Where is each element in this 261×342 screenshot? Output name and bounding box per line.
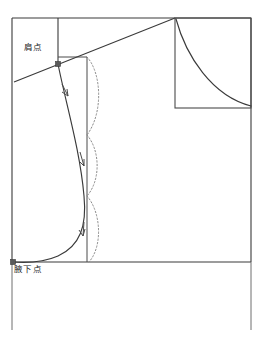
detail-inset-curve: [176, 19, 251, 106]
dotted-arc-middle: [87, 135, 97, 196]
curve-direction-arrow-1: [62, 84, 68, 96]
shoulder-point-marker: [56, 62, 61, 67]
pattern-diagram-canvas: 肩点 腋下点: [0, 0, 261, 342]
underarm-point-label: 腋下点: [14, 265, 42, 274]
shoulder-point-label: 肩点: [24, 43, 43, 52]
dotted-arc-lower: [87, 196, 99, 262]
armhole-seam-curve: [13, 64, 85, 262]
detail-inset-frame: [175, 18, 251, 108]
dotted-arc-upper: [87, 57, 99, 135]
